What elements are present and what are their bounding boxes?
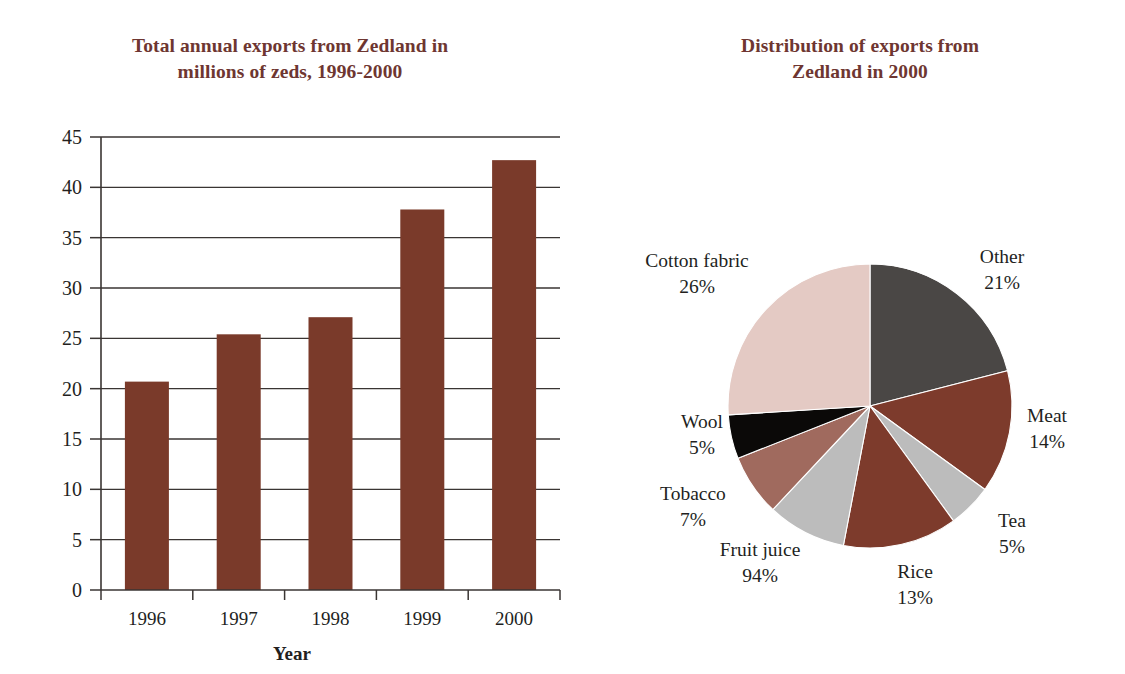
pie-label-wool-value: 5% (689, 437, 715, 458)
bar-chart-svg: 051015202530354045 19961997199819992000 … (0, 0, 575, 674)
bar-1999 (400, 209, 444, 590)
y-axis-tick-label: 45 (62, 126, 82, 148)
pie-slices (728, 264, 1012, 548)
bar-chart-bars (125, 160, 536, 590)
pie-label-wool: Wool 5% (681, 411, 723, 458)
pie-label-meat-name: Meat (1027, 405, 1068, 426)
pie-label-cotton-fabric: Cotton fabric 26% (645, 250, 749, 297)
pie-label-tobacco-name: Tobacco (660, 483, 726, 504)
bar-2000 (492, 160, 536, 590)
x-axis-ticks: 19961997199819992000 (101, 590, 560, 629)
pie-label-meat: Meat 14% (1027, 405, 1068, 452)
pie-label-rice-name: Rice (897, 561, 933, 582)
y-axis-tick-label: 10 (62, 478, 82, 500)
pie-label-tobacco-value: 7% (680, 509, 706, 530)
y-axis-tick-label: 5 (72, 529, 82, 551)
pie-label-other: Other 21% (980, 246, 1025, 293)
pie-label-tobacco: Tobacco 7% (660, 483, 726, 530)
pie-label-other-value: 21% (984, 272, 1020, 293)
pie-label-tea-name: Tea (998, 510, 1026, 531)
y-axis-tick-label: 0 (72, 579, 82, 601)
pie-label-fruit-juice-value: 94% (742, 565, 778, 586)
pie-label-rice: Rice 13% (897, 561, 933, 608)
pie-chart: Cotton fabric 26% Other 21% Meat 14% Tea… (575, 0, 1125, 674)
pie-slice-cotton-fabric (728, 264, 870, 415)
x-axis-category-label: 1999 (403, 608, 441, 629)
pie-label-other-name: Other (980, 246, 1025, 267)
y-axis-tick-label: 35 (62, 227, 82, 249)
y-axis-tick-label: 15 (62, 428, 82, 450)
y-axis-tick-label: 20 (62, 378, 82, 400)
y-axis-tick-label: 30 (62, 277, 82, 299)
pie-label-tea-value: 5% (999, 536, 1025, 557)
pie-label-fruit-juice: Fruit juice 94% (720, 539, 801, 586)
pie-chart-svg: Cotton fabric 26% Other 21% Meat 14% Tea… (575, 0, 1125, 674)
bar-1998 (309, 317, 353, 590)
pie-label-wool-name: Wool (681, 411, 723, 432)
y-axis-tick-label: 40 (62, 176, 82, 198)
pie-label-meat-value: 14% (1029, 431, 1065, 452)
pie-label-tea: Tea 5% (998, 510, 1026, 557)
x-axis-category-label: 1998 (312, 608, 350, 629)
x-axis-label: Year (273, 643, 312, 664)
x-axis-category-label: 1997 (220, 608, 258, 629)
bar-1996 (125, 382, 169, 590)
y-axis-tick-label: 25 (62, 327, 82, 349)
pie-label-rice-value: 13% (897, 587, 933, 608)
pie-label-cotton-fabric-name: Cotton fabric (645, 250, 749, 271)
y-axis-ticks: 051015202530354045 (62, 126, 101, 601)
x-axis-category-label: 2000 (495, 608, 533, 629)
pie-label-fruit-juice-name: Fruit juice (720, 539, 801, 560)
bar-chart: 051015202530354045 19961997199819992000 … (0, 0, 575, 674)
pie-label-cotton-fabric-value: 26% (679, 276, 715, 297)
bar-1997 (217, 334, 261, 590)
x-axis-category-label: 1996 (128, 608, 166, 629)
